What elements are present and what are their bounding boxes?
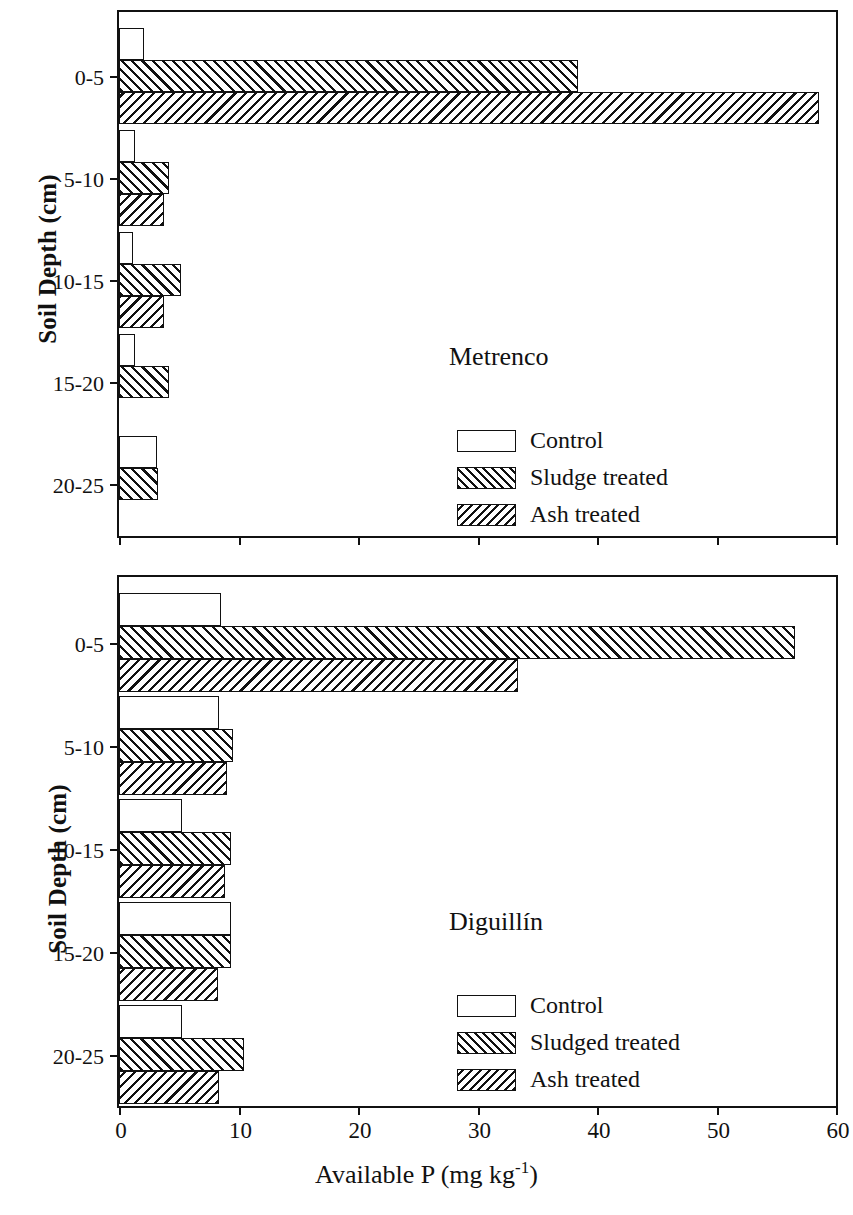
bar-ash-0-5 bbox=[119, 92, 819, 124]
legend-swatch-control-icon bbox=[457, 995, 516, 1017]
legend-swatch-ash-icon bbox=[457, 504, 516, 526]
chart-panel-diguillin: 0-55-1010-1515-2020-250102030405060 Digu… bbox=[117, 575, 838, 1108]
bar-control-20-25 bbox=[119, 436, 157, 468]
y-axis-tick-15-20: 15-20 bbox=[110, 952, 119, 954]
bar-control-15-20 bbox=[119, 334, 135, 366]
y-axis-tick-15-20: 15-20 bbox=[110, 382, 119, 384]
x-axis-tick-30 bbox=[478, 536, 480, 545]
legend-item-sludge: Sludged treated bbox=[457, 1024, 680, 1061]
y-axis-tick-5-10: 5-10 bbox=[110, 746, 119, 748]
legend-item-ash: Ash treated bbox=[457, 496, 668, 533]
x-axis-title-main: Available P (mg kg bbox=[315, 1160, 515, 1189]
legend-label-control: Control bbox=[530, 992, 603, 1019]
y-axis-tick-label: 20-25 bbox=[0, 1044, 104, 1070]
x-axis-title-exponent: -1 bbox=[515, 1158, 529, 1177]
bar-ash-10-15 bbox=[119, 296, 164, 328]
x-axis-tick-label: 40 bbox=[569, 1118, 629, 1144]
y-axis-tick-label: 5-10 bbox=[0, 735, 104, 761]
y-axis-tick-0-5: 0-5 bbox=[110, 76, 119, 78]
legend-swatch-sludge-icon bbox=[457, 1032, 516, 1054]
x-axis-tick-label: 50 bbox=[689, 1118, 749, 1144]
bar-sludge-20-25 bbox=[119, 468, 158, 500]
panel-title-diguillin: Diguillín bbox=[449, 907, 543, 937]
bar-control-5-10 bbox=[119, 696, 219, 729]
legend-label-sludge: Sludge treated bbox=[530, 464, 668, 491]
y-axis-tick-5-10: 5-10 bbox=[110, 178, 119, 180]
y-axis-tick-label: 5-10 bbox=[0, 167, 104, 193]
bar-ash-20-25 bbox=[119, 1071, 219, 1104]
x-axis-tick-0: 0 bbox=[119, 1106, 121, 1115]
x-axis-tick-label: 60 bbox=[808, 1118, 853, 1144]
x-axis-tick-20 bbox=[358, 536, 360, 545]
x-axis-tick-label: 0 bbox=[91, 1118, 151, 1144]
bar-ash-5-10 bbox=[119, 762, 227, 795]
legend-swatch-sludge-icon bbox=[457, 467, 516, 489]
legend-label-ash: Ash treated bbox=[530, 501, 640, 528]
bar-sludge-5-10 bbox=[119, 162, 169, 194]
y-axis-tick-10-15: 10-15 bbox=[110, 849, 119, 851]
legend-item-ash: Ash treated bbox=[457, 1061, 680, 1098]
x-axis-tick-60 bbox=[836, 536, 838, 545]
bar-sludge-15-20 bbox=[119, 366, 169, 398]
legend-diguillin: Control Sludged treated Ash treated bbox=[457, 987, 680, 1098]
bar-ash-15-20 bbox=[119, 968, 218, 1001]
panel-title-metrenco: Metrenco bbox=[449, 342, 549, 372]
bar-sludge-0-5 bbox=[119, 626, 795, 659]
x-axis-tick-40 bbox=[597, 536, 599, 545]
legend-item-control: Control bbox=[457, 422, 668, 459]
legend-label-sludge: Sludged treated bbox=[530, 1029, 680, 1056]
bar-ash-5-10 bbox=[119, 194, 164, 226]
x-axis-tick-10: 10 bbox=[239, 1106, 241, 1115]
y-axis-tick-label: 15-20 bbox=[0, 941, 104, 967]
y-axis-tick-label: 0-5 bbox=[0, 65, 104, 91]
x-axis-tick-20: 20 bbox=[358, 1106, 360, 1115]
bar-ash-0-5 bbox=[119, 659, 518, 692]
chart-panel-metrenco: 0-55-1010-1515-2020-25 Metrenco Control … bbox=[117, 10, 838, 538]
bar-sludge-15-20 bbox=[119, 935, 231, 968]
legend-item-control: Control bbox=[457, 987, 680, 1024]
bar-control-10-15 bbox=[119, 799, 182, 832]
y-axis-tick-20-25: 20-25 bbox=[110, 484, 119, 486]
x-axis-title: Available P (mg kg-1) bbox=[0, 1158, 853, 1190]
bar-sludge-10-15 bbox=[119, 264, 181, 296]
bar-control-20-25 bbox=[119, 1005, 182, 1038]
bar-ash-10-15 bbox=[119, 865, 225, 898]
bar-sludge-10-15 bbox=[119, 832, 231, 865]
legend-item-sludge: Sludge treated bbox=[457, 459, 668, 496]
figure-available-phosphorus-by-soil-depth: Soil Depth (cm) Soil Depth (cm) 0-55-101… bbox=[0, 0, 853, 1215]
x-axis-tick-40: 40 bbox=[597, 1106, 599, 1115]
x-axis-tick-label: 20 bbox=[330, 1118, 390, 1144]
y-axis-tick-label: 10-15 bbox=[0, 838, 104, 864]
legend-label-control: Control bbox=[530, 427, 603, 454]
bar-control-0-5 bbox=[119, 28, 144, 60]
y-axis-tick-label: 15-20 bbox=[0, 371, 104, 397]
bar-sludge-0-5 bbox=[119, 60, 578, 92]
bar-control-5-10 bbox=[119, 130, 135, 162]
x-axis-tick-50 bbox=[717, 536, 719, 545]
bar-sludge-20-25 bbox=[119, 1038, 244, 1071]
bar-control-10-15 bbox=[119, 232, 133, 264]
x-axis-tick-30: 30 bbox=[478, 1106, 480, 1115]
x-axis-tick-0 bbox=[119, 536, 121, 545]
bar-control-15-20 bbox=[119, 902, 231, 935]
y-axis-tick-10-15: 10-15 bbox=[110, 280, 119, 282]
legend-swatch-control-icon bbox=[457, 430, 516, 452]
y-axis-tick-label: 20-25 bbox=[0, 473, 104, 499]
y-axis-tick-label: 10-15 bbox=[0, 269, 104, 295]
x-axis-title-tail: ) bbox=[529, 1160, 538, 1189]
y-axis-tick-20-25: 20-25 bbox=[110, 1055, 119, 1057]
x-axis-tick-10 bbox=[239, 536, 241, 545]
x-axis-tick-50: 50 bbox=[717, 1106, 719, 1115]
x-axis-tick-label: 30 bbox=[450, 1118, 510, 1144]
legend-swatch-ash-icon bbox=[457, 1069, 516, 1091]
y-axis-tick-0-5: 0-5 bbox=[110, 643, 119, 645]
y-axis-tick-label: 0-5 bbox=[0, 632, 104, 658]
legend-metrenco: Control Sludge treated Ash treated bbox=[457, 422, 668, 533]
legend-label-ash: Ash treated bbox=[530, 1066, 640, 1093]
x-axis-tick-label: 10 bbox=[211, 1118, 271, 1144]
bar-sludge-5-10 bbox=[119, 729, 233, 762]
bar-control-0-5 bbox=[119, 593, 221, 626]
x-axis-tick-60: 60 bbox=[836, 1106, 838, 1115]
